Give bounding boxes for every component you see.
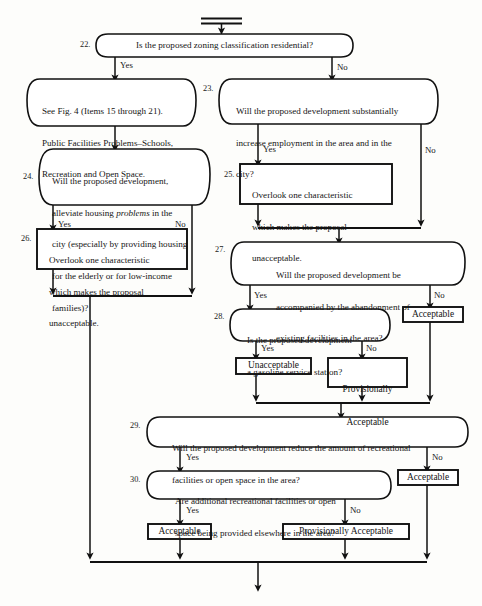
node-30-number: 30.	[130, 475, 140, 484]
merge-bar-above-29	[256, 403, 430, 416]
node-26-number: 26.	[21, 234, 31, 243]
edge-label-29-no: No	[432, 452, 443, 462]
edge-label-22-yes: Yes	[120, 60, 133, 70]
node-30-shape	[147, 471, 391, 499]
merge-bar-above-27	[258, 228, 421, 241]
edge-label-28-yes: Yes	[261, 343, 274, 353]
node-24-number: 24.	[23, 172, 33, 181]
edge-label-30-yes: Yes	[186, 505, 199, 515]
edge-label-29-yes: Yes	[186, 452, 199, 462]
node-25-number: 25.	[224, 170, 234, 179]
entry-connector-icon	[201, 19, 242, 32]
edge-label-23-no: No	[425, 145, 436, 155]
node-25-shape	[240, 164, 392, 204]
node-29-number: 29.	[130, 421, 140, 430]
edge-label-27-yes: Yes	[254, 290, 267, 300]
node-28yes-shape	[236, 358, 311, 374]
node-28no-shape	[328, 358, 407, 387]
edge-label-24-no: No	[175, 219, 186, 229]
node-22-shape	[96, 34, 353, 57]
node-23-number: 23.	[203, 84, 213, 93]
node-22-number: 22.	[80, 40, 90, 49]
node-26-shape	[37, 229, 187, 269]
edge-label-23-yes: Yes	[263, 144, 276, 154]
edge-label-30-no: No	[350, 505, 361, 515]
edge-label-24-yes: Yes	[58, 219, 71, 229]
flowchart-canvas: 22. 23. 24. 25. 26. 27. 28. 29. 30. Is t…	[0, 0, 482, 606]
flowchart-graphics	[0, 0, 482, 606]
edge-label-22-no: No	[337, 62, 348, 72]
node-27-shape	[231, 242, 465, 285]
node-23-shape	[219, 79, 438, 124]
node-28-shape	[230, 309, 390, 341]
node-27-number: 27.	[215, 245, 225, 254]
node-24-shape	[39, 149, 210, 205]
node-29-shape	[147, 417, 468, 447]
edge-label-28-no: No	[366, 343, 377, 353]
node-30yes-shape	[148, 524, 211, 539]
edge-label-27-no: No	[434, 290, 445, 300]
node-28-number: 28.	[214, 312, 224, 321]
node-see-fig4-shape	[27, 79, 196, 126]
node-27no-shape	[403, 307, 463, 322]
node-30no-shape	[283, 524, 409, 539]
node-29no-shape	[398, 470, 458, 485]
